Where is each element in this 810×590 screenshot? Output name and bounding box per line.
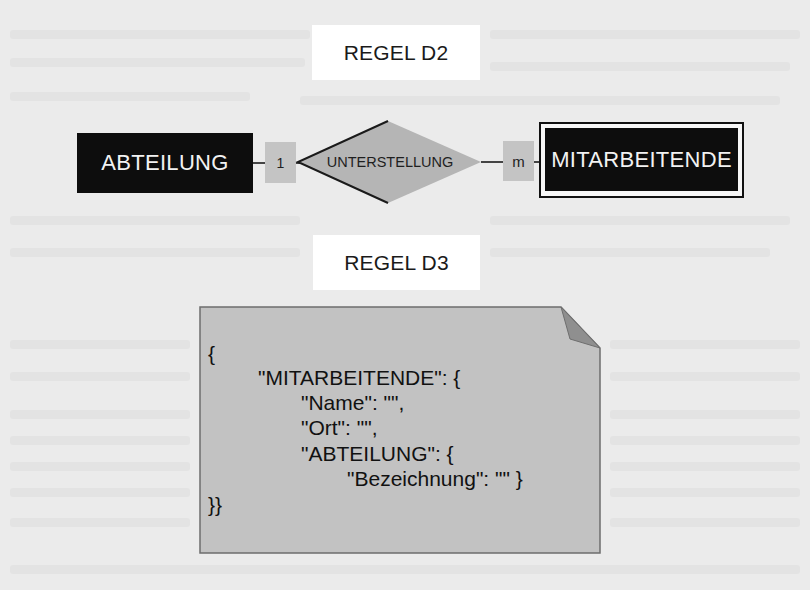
json-line-close-braces: }} (208, 491, 222, 518)
json-line-open-brace: { (208, 340, 215, 367)
json-line-ort: "Ort": "", (301, 414, 377, 441)
json-line-name: "Name": "", (301, 389, 404, 416)
json-line-bezeichnung: "Bezeichnung": "" } (347, 465, 523, 492)
json-line-mitarbeitende: "MITARBEITENDE": { (258, 364, 460, 391)
document-card-shape (0, 0, 810, 590)
json-line-abteilung: "ABTEILUNG": { (301, 440, 454, 467)
